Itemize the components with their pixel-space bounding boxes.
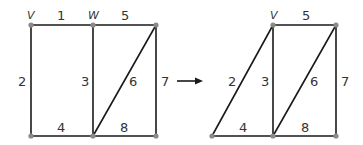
edge-label-8: 8 xyxy=(120,120,128,135)
vertex-label-w: W xyxy=(88,9,100,22)
right-graph: V 5 2 3 6 7 4 8 xyxy=(209,8,349,139)
edge-label-3: 3 xyxy=(81,74,89,89)
vertex-bottom-left xyxy=(28,133,33,138)
vertex-w xyxy=(90,22,95,27)
edge-label-6: 6 xyxy=(129,74,137,89)
vertex-v xyxy=(28,22,33,27)
graph-contraction-diagram: V W 1 5 2 3 6 7 4 8 V 5 2 3 6 7 4 8 xyxy=(0,0,363,145)
vertex-bottom-right xyxy=(153,133,158,138)
edge-label-5: 5 xyxy=(302,8,310,23)
edge-label-7: 7 xyxy=(161,74,169,89)
edge-label-1: 1 xyxy=(57,8,65,23)
vertex-top-right xyxy=(333,22,338,27)
vertex-label-v: V xyxy=(270,9,279,22)
vertex-bottom-mid xyxy=(270,133,275,138)
vertex-label-v: V xyxy=(27,9,36,22)
vertex-top-right xyxy=(153,22,158,27)
vertex-bottom-right xyxy=(333,133,338,138)
edge-label-5: 5 xyxy=(121,8,129,23)
vertex-bottom-left xyxy=(209,133,214,138)
edge-label-4: 4 xyxy=(57,120,65,135)
left-graph: V W 1 5 2 3 6 7 4 8 xyxy=(18,8,169,139)
vertex-bottom-mid xyxy=(90,133,95,138)
edge-label-6: 6 xyxy=(310,74,318,89)
edge-label-4: 4 xyxy=(239,120,247,135)
edge-label-7: 7 xyxy=(341,74,349,89)
edge-label-2: 2 xyxy=(18,74,26,89)
edge-label-8: 8 xyxy=(301,120,309,135)
edge-label-3: 3 xyxy=(261,74,269,89)
edge-label-2: 2 xyxy=(228,74,236,89)
arrow-right-icon xyxy=(177,78,203,85)
vertex-v xyxy=(270,22,275,27)
